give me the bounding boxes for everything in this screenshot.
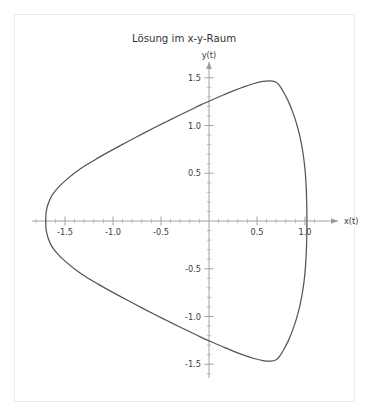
y-tick-label: 1.5 [188,73,201,83]
x-tick-label: 1.0 [298,227,311,237]
y-tick-label: 1.0 [188,121,201,131]
x-axis-label: x(t) [344,216,358,226]
chart-title: Lösung im x-y-Raum [132,33,236,44]
y-tick-label: -0.5 [185,264,201,274]
y-tick-label: -1.0 [185,312,201,322]
x-tick-label: 0.5 [250,227,263,237]
y-tick-label: 0.5 [188,168,201,178]
figure-root: -1.5-1.0-0.50.51.0-1.5-1.0-0.50.51.01.5 … [0,0,371,418]
y-axis-label: y(t) [202,50,216,60]
x-axis-arrow-icon [331,218,338,224]
phase-plot-svg: -1.5-1.0-0.50.51.0-1.5-1.0-0.50.51.01.5 … [0,0,371,418]
x-tick-label: -1.5 [57,227,73,237]
y-tick-label: -1.5 [185,359,201,369]
x-tick-label: -0.5 [153,227,169,237]
x-tick-label: -1.0 [105,227,121,237]
